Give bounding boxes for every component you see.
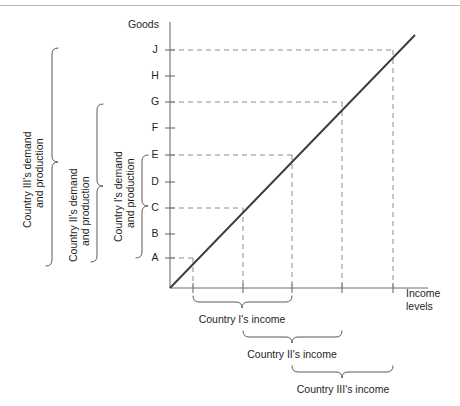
y-label-e: E	[151, 148, 158, 160]
y-label-c: C	[151, 201, 159, 213]
goods-brace-country3-label-line2: and production	[33, 138, 45, 208]
income-brace-country2	[243, 331, 342, 343]
goods-income-line	[170, 35, 415, 288]
y-label-a: A	[151, 251, 158, 263]
goods-vs-income-chart: Goods Income levels J H G F E D C B A	[0, 0, 460, 406]
y-axis-title: Goods	[128, 18, 159, 30]
figure-canvas: Goods Income levels J H G F E D C B A	[0, 0, 460, 406]
goods-brace-country2-label-line1: Country II's demand	[67, 168, 79, 262]
y-label-d: D	[151, 175, 159, 187]
y-label-group: J H G F E D C B A	[151, 43, 159, 263]
goods-brace-country2-label-line2: and production	[79, 176, 91, 246]
income-brace-country1	[193, 296, 292, 308]
goods-brace-country3-label-line1: Country III's demand	[21, 131, 33, 228]
x-axis-title-line1: Income	[406, 287, 441, 299]
y-label-f: F	[152, 121, 158, 133]
goods-brace-country1-label-line1: Country I's demand	[112, 151, 124, 242]
income-brace-country3-label: Country III's income	[297, 383, 390, 395]
y-label-h: H	[151, 69, 159, 81]
goods-brace-country3	[46, 48, 58, 266]
goods-brace-country1	[136, 155, 148, 258]
y-label-b: B	[151, 227, 158, 239]
income-brace-country2-label: Country II's income	[247, 348, 337, 360]
y-label-g: G	[151, 95, 159, 107]
y-label-j: J	[152, 43, 157, 55]
income-brace-country3	[292, 366, 393, 378]
goods-brace-country1-label-line2: and production	[124, 158, 136, 228]
income-brace-country1-label: Country I's income	[199, 313, 286, 325]
goods-brace-country2	[91, 104, 103, 262]
x-axis-title-line2: levels	[406, 300, 433, 312]
